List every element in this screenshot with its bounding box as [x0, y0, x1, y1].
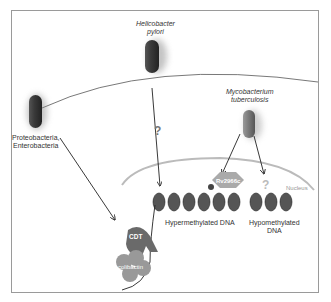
hypermethylated-dna-label: Hypermethylated DNA [165, 219, 235, 227]
rv2966c-label: Rv2966c [216, 177, 240, 185]
label-mycobacterium: Mycobacterium tuberculosis [226, 88, 273, 104]
cdt-label: CDT [129, 233, 142, 241]
label-line: tuberculosis [226, 96, 273, 104]
cell-membrane [42, 74, 318, 108]
arrow-mtb-hypo [254, 136, 264, 174]
question-mark-hypo: ? [262, 178, 269, 192]
label-line: Hypomethylated [249, 219, 300, 227]
cdt-protein-icon [126, 227, 158, 256]
label-helicobacter: Helicobacter pylori [136, 20, 175, 36]
question-mark-hpylori: ? [154, 124, 161, 138]
mycobacterium-bacterium-icon [243, 110, 262, 140]
arrow-proteo [60, 138, 115, 220]
proteobacteria-bacterium-icon [27, 94, 47, 130]
arrow-mtb-rv [222, 134, 240, 174]
nucleosome-chain-hyper [153, 193, 240, 211]
label-line: Enterobacteria [12, 142, 59, 150]
label-line: pylori [136, 28, 175, 36]
label-proteobacteria: Proteobacteria, Enterobacteria [12, 134, 59, 150]
label-line: DNA [249, 227, 300, 235]
label-line: Proteobacteria, [12, 134, 59, 142]
label-line: Mycobacterium [226, 88, 273, 96]
nucleus-label: Nucleus [286, 184, 308, 192]
colibactin-label: colibactin [118, 263, 143, 271]
nucleosome-chain-hypo [250, 193, 292, 211]
diagram-canvas [0, 0, 331, 302]
helicobacter-bacterium-icon [145, 39, 167, 73]
label-line: Helicobacter [136, 20, 175, 28]
hypomethylated-dna-label: Hypomethylated DNA [249, 219, 300, 235]
